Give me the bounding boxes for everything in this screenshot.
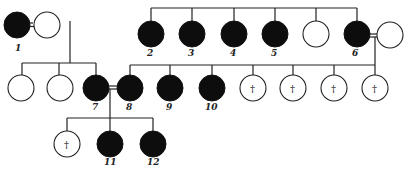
individual-9 — [157, 75, 183, 101]
label-7: 7 — [92, 102, 99, 112]
label-3: 3 — [188, 48, 194, 58]
individual-10 — [199, 75, 225, 101]
individual-11 — [97, 131, 123, 157]
deceased-mark: † — [64, 139, 69, 150]
individual-7 — [83, 75, 109, 101]
label-6: 6 — [352, 48, 359, 58]
label-5: 5 — [271, 48, 277, 58]
label-10: 10 — [205, 102, 218, 112]
individual-2 — [138, 21, 164, 47]
individual-child-1a — [8, 75, 34, 101]
deceased-mark: † — [372, 83, 377, 94]
individual-1 — [4, 12, 30, 38]
label-4: 4 — [230, 48, 236, 58]
individual-1-spouse — [34, 12, 60, 38]
individual-6 — [344, 21, 370, 47]
individual-6-spouse — [377, 22, 403, 48]
label-1: 1 — [15, 43, 21, 53]
individual-4 — [221, 21, 247, 47]
marriage-line-7-8 — [108, 86, 118, 89]
label-8: 8 — [126, 102, 133, 112]
individual-5 — [262, 21, 288, 47]
label-9: 9 — [166, 102, 173, 112]
deceased-mark: † — [331, 83, 336, 94]
individual-3 — [179, 21, 205, 47]
deceased-mark: † — [290, 83, 295, 94]
pedigree-diagram: 1 2 3 4 5 6 7 8 9 10 † † † † † 11 12 — [0, 0, 418, 171]
individual-unaffected-sibling — [303, 21, 329, 47]
individual-12 — [140, 131, 166, 157]
deceased-mark: † — [250, 83, 255, 94]
label-2: 2 — [146, 48, 153, 58]
label-12: 12 — [147, 157, 160, 167]
label-11: 11 — [104, 157, 117, 167]
individual-8 — [117, 75, 143, 101]
individual-child-1b — [47, 75, 73, 101]
